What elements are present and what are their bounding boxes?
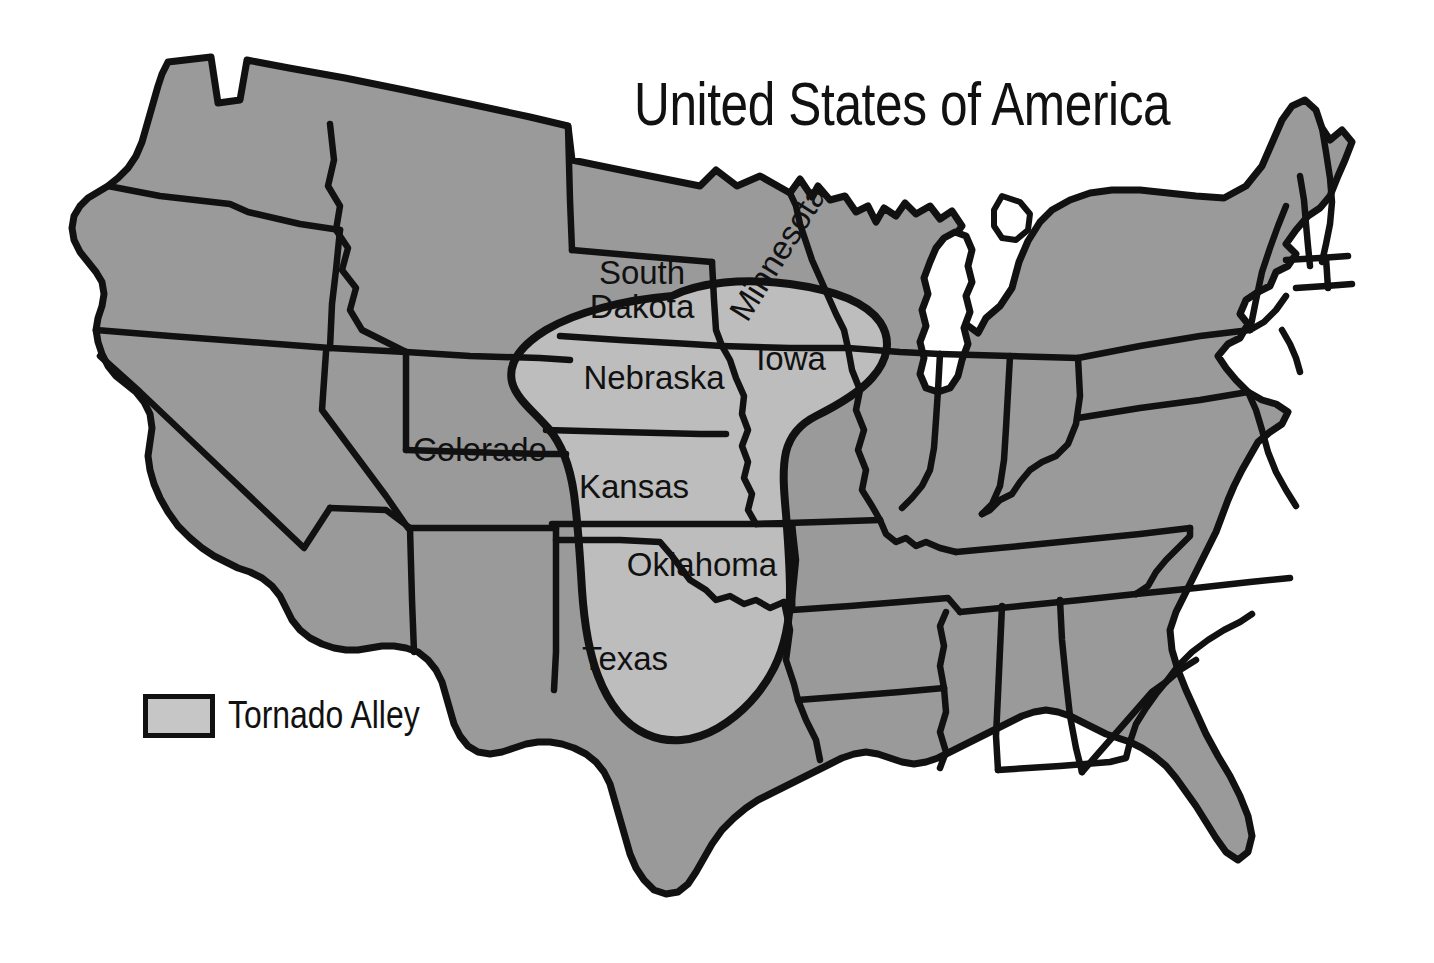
state-label-south-dakota-line-2: Dakota (556, 290, 728, 324)
state-label-texas-text: Texas (582, 640, 668, 677)
state-label-south-dakota: South Dakota (556, 256, 728, 323)
state-label-kansas: Kansas (558, 470, 710, 504)
state-label-nebraska: Nebraska (568, 361, 740, 395)
state-label-colorado-text: Colorado (413, 431, 547, 468)
usa-map-svg (0, 0, 1434, 963)
state-label-kansas-text: Kansas (579, 468, 689, 505)
legend-label-tornado-alley: Tornado Alley (228, 696, 420, 734)
map-figure: United States of America South Dakota Mi… (0, 0, 1434, 963)
state-label-south-dakota-line-1: South (556, 256, 728, 290)
state-label-oklahoma-text: Oklahoma (627, 546, 777, 583)
state-label-colorado: Colorado (394, 433, 566, 467)
state-label-oklahoma: Oklahoma (612, 548, 792, 582)
state-label-iowa-text: Iowa (756, 340, 826, 377)
legend-swatch-tornado-alley (143, 694, 215, 738)
state-label-iowa: Iowa (735, 342, 847, 376)
state-label-nebraska-text: Nebraska (583, 359, 724, 396)
page-title: United States of America (634, 72, 1146, 136)
state-label-texas: Texas (556, 642, 694, 676)
